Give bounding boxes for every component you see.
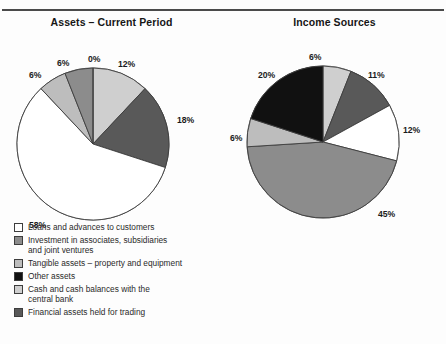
legend-item[interactable]: Financial assets held for trading <box>14 307 214 318</box>
legend-item-label: Investment in associates, subsidiaries a… <box>28 235 214 256</box>
legend-swatch-icon <box>14 259 23 268</box>
legend-item-label: Tangible assets – property and equipment <box>28 258 214 269</box>
pie-percentage-label: 6% <box>29 70 41 80</box>
legend-item-label: Financial assets held for trading <box>28 307 214 318</box>
pie-percentage-label: 6% <box>57 58 69 68</box>
pie-chart-income[interactable]: 6%11%12%45%6%20% <box>223 32 446 224</box>
chart-panel-assets: Assets – Current Period 12%18%58%6%6%0% … <box>0 12 223 344</box>
legend-swatch-icon <box>14 272 23 281</box>
chart-panel-income: Income Sources 6%11%12%45%6%20% Gains on… <box>223 12 446 344</box>
pie-percentage-label: 12% <box>403 125 420 135</box>
legend-assets: Loans and advances to customersInvestmen… <box>14 222 214 320</box>
pie-percentage-label: 0% <box>88 54 100 64</box>
pie-percentage-label: 20% <box>258 70 275 80</box>
legend-item-label: Cash and cash balances with the central … <box>28 284 214 305</box>
pie-svg-assets[interactable] <box>0 32 223 224</box>
pie-percentage-label: 45% <box>378 209 395 219</box>
legend-item[interactable]: Investment in associates, subsidiaries a… <box>14 235 214 256</box>
report-page: Assets – Current Period 12%18%58%6%6%0% … <box>0 0 446 344</box>
legend-item[interactable]: Loans and advances to customers <box>14 222 214 233</box>
legend-swatch-icon <box>14 236 23 245</box>
legend-item-label: Loans and advances to customers <box>28 222 214 233</box>
pie-percentage-label: 6% <box>230 133 242 143</box>
pie-percentage-label: 6% <box>309 52 321 62</box>
legend-item-label: Other assets <box>28 271 214 282</box>
pie-chart-assets[interactable]: 12%18%58%6%6%0% <box>0 32 223 224</box>
legend-item[interactable]: Cash and cash balances with the central … <box>14 284 214 305</box>
legend-swatch-icon <box>14 308 23 317</box>
chart-title-income: Income Sources <box>223 16 446 28</box>
legend-item[interactable]: Other assets <box>14 271 214 282</box>
legend-swatch-icon <box>14 285 23 294</box>
legend-item[interactable]: Tangible assets – property and equipment <box>14 258 214 269</box>
legend-swatch-icon <box>14 223 23 232</box>
pie-percentage-label: 18% <box>177 115 194 125</box>
chart-title-assets: Assets – Current Period <box>0 16 223 28</box>
pie-percentage-label: 12% <box>118 59 135 69</box>
pie-percentage-label: 11% <box>368 70 385 80</box>
header-divider <box>2 9 444 11</box>
